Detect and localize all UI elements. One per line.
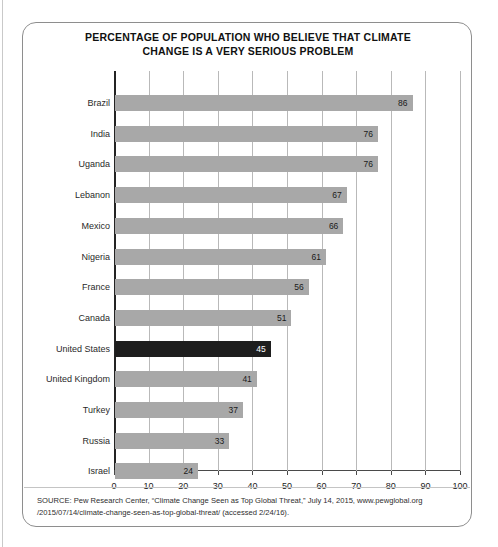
bar: 56 bbox=[115, 279, 309, 295]
chart-card: PERCENTAGE OF POPULATION WHO BELIEVE THA… bbox=[22, 22, 472, 527]
category-label: Turkey bbox=[22, 405, 110, 415]
x-axis-tick bbox=[252, 471, 253, 475]
x-axis-tick-label: 40 bbox=[237, 481, 267, 491]
bar: 86 bbox=[115, 95, 413, 111]
category-label: Israel bbox=[22, 466, 110, 476]
category-label: Uganda bbox=[22, 159, 110, 169]
bar-value-label: 61 bbox=[312, 250, 321, 264]
category-label: United States bbox=[22, 344, 110, 354]
bar-chart-canvas: 0102030405060708090100867676676661565145… bbox=[114, 71, 460, 471]
bar-value-label: 76 bbox=[363, 127, 372, 141]
bar: 37 bbox=[115, 402, 243, 418]
x-axis-tick bbox=[218, 471, 219, 475]
bar: 66 bbox=[115, 218, 343, 234]
x-axis-tick bbox=[287, 471, 288, 475]
chart-title-line-1: PERCENTAGE OF POPULATION WHO BELIEVE THA… bbox=[49, 31, 447, 45]
x-axis-tick bbox=[425, 471, 426, 475]
x-axis-tick-label: 100 bbox=[445, 481, 475, 491]
bar: 33 bbox=[115, 433, 229, 449]
bar-value-label: 67 bbox=[332, 188, 341, 202]
x-axis-tick-label: 60 bbox=[307, 481, 337, 491]
category-label: India bbox=[22, 129, 110, 139]
bar: 24 bbox=[115, 463, 198, 479]
bar: 67 bbox=[115, 187, 347, 203]
chart-title-line-2: CHANGE IS A VERY SERIOUS PROBLEM bbox=[49, 45, 447, 59]
category-label: Russia bbox=[22, 436, 110, 446]
category-label: United Kingdom bbox=[22, 374, 110, 384]
source-note: SOURCE: Pew Research Center, “Climate Ch… bbox=[37, 495, 457, 518]
x-axis-tick-label: 50 bbox=[272, 481, 302, 491]
bar-value-label: 41 bbox=[242, 372, 251, 386]
gridline bbox=[391, 71, 392, 471]
bar-value-label: 37 bbox=[229, 403, 238, 417]
bar-value-label: 45 bbox=[256, 342, 265, 356]
category-label: Lebanon bbox=[22, 190, 110, 200]
category-label: Brazil bbox=[22, 98, 110, 108]
bar: 51 bbox=[115, 310, 291, 326]
bar-value-label: 51 bbox=[277, 311, 286, 325]
bar: 45 bbox=[115, 341, 271, 357]
chart-title: PERCENTAGE OF POPULATION WHO BELIEVE THA… bbox=[49, 31, 447, 58]
bar: 41 bbox=[115, 371, 257, 387]
bar-value-label: 66 bbox=[329, 219, 338, 233]
source-divider bbox=[24, 487, 470, 488]
bar: 76 bbox=[115, 156, 378, 172]
bar: 61 bbox=[115, 249, 326, 265]
x-axis-tick-label: 0 bbox=[99, 481, 129, 491]
x-axis-tick bbox=[356, 471, 357, 475]
bar-value-label: 24 bbox=[184, 464, 193, 478]
gridline bbox=[460, 71, 461, 471]
category-axis-labels: BrazilIndiaUgandaLebanonMexicoNigeriaFra… bbox=[23, 71, 114, 471]
chart-plot-area: BrazilIndiaUgandaLebanonMexicoNigeriaFra… bbox=[23, 71, 473, 483]
x-axis-tick bbox=[322, 471, 323, 475]
x-axis-tick bbox=[460, 471, 461, 475]
page-edge-line bbox=[2, 0, 3, 547]
x-axis-tick bbox=[391, 471, 392, 475]
x-axis-tick-label: 90 bbox=[410, 481, 440, 491]
category-label: Canada bbox=[22, 313, 110, 323]
bar-value-label: 76 bbox=[363, 157, 372, 171]
bar-value-label: 56 bbox=[294, 280, 303, 294]
bar-value-label: 86 bbox=[398, 96, 407, 110]
bar: 76 bbox=[115, 126, 378, 142]
x-axis-tick-label: 30 bbox=[203, 481, 233, 491]
x-axis-tick-label: 80 bbox=[376, 481, 406, 491]
x-axis-tick-label: 10 bbox=[134, 481, 164, 491]
bar-value-label: 33 bbox=[215, 434, 224, 448]
x-axis-tick-label: 20 bbox=[168, 481, 198, 491]
category-label: Nigeria bbox=[22, 252, 110, 262]
category-label: Mexico bbox=[22, 221, 110, 231]
x-axis-tick-label: 70 bbox=[341, 481, 371, 491]
category-label: France bbox=[22, 282, 110, 292]
gridline bbox=[425, 71, 426, 471]
